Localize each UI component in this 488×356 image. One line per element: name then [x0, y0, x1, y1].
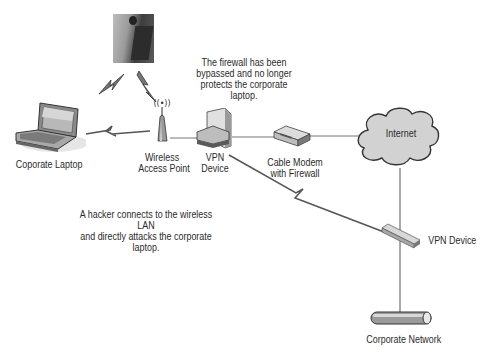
vpn-device-right-icon — [380, 222, 422, 250]
cable-modem-label: Cable Modem with Firewall — [267, 157, 323, 179]
vpn-right-label: VPN Device — [428, 235, 476, 246]
internet-label: Internet — [383, 128, 419, 139]
hacker-monitor — [131, 26, 154, 60]
firewall-bypassed-note: The firewall has been bypassed and no lo… — [191, 57, 296, 101]
wireless-link-laptop — [86, 126, 150, 136]
hacker-attack-note: A hacker connects to the wireless LAN an… — [76, 209, 215, 253]
network-bus-icon — [369, 310, 435, 326]
lightning-bolt-left-icon — [99, 74, 124, 94]
svg-text:((•)): ((•)) — [153, 99, 170, 108]
laptop-label: Coporate Laptop — [16, 159, 82, 170]
network-diagram: Coporate Laptop ((•)) Wireless Access Po… — [0, 0, 488, 356]
hacker-figure — [129, 16, 137, 25]
laptop-icon — [14, 99, 86, 155]
connection-lines — [0, 0, 488, 356]
hacker-photo — [113, 14, 154, 63]
cable-modem-icon — [272, 124, 312, 148]
vpn-left-label: VPN Device — [199, 152, 231, 174]
vpn-device-icon — [195, 108, 235, 150]
wireless-access-point-icon: ((•)) — [150, 97, 174, 143]
access-point-label: Wireless Access Point — [138, 152, 186, 174]
corporate-network-label: Corporate Network — [366, 334, 437, 345]
